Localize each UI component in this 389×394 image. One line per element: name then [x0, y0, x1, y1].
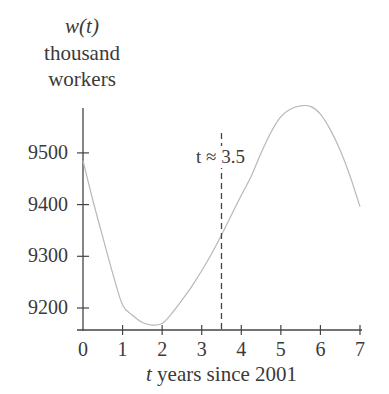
- y-tick-label: 9500: [6, 141, 68, 164]
- x-tick-label: 1: [113, 338, 133, 361]
- x-tick-label: 0: [73, 338, 93, 361]
- x-tick-label: 2: [152, 338, 172, 361]
- x-tick-label: 6: [310, 338, 330, 361]
- y-tick-label: 9300: [6, 244, 68, 267]
- x-tick-label: 4: [231, 338, 251, 361]
- x-tick-label: 7: [350, 338, 370, 361]
- x-tick-label: 3: [192, 338, 212, 361]
- x-axis-label: t years since 2001: [83, 362, 360, 387]
- y-tick-label: 9200: [6, 296, 68, 319]
- x-axis-label-text: years since 2001: [152, 362, 297, 386]
- x-tick-label: 5: [271, 338, 291, 361]
- y-tick-label: 9400: [6, 193, 68, 216]
- axes: [77, 108, 362, 335]
- annotation-t-approx: t ≈ 3.5: [195, 146, 246, 168]
